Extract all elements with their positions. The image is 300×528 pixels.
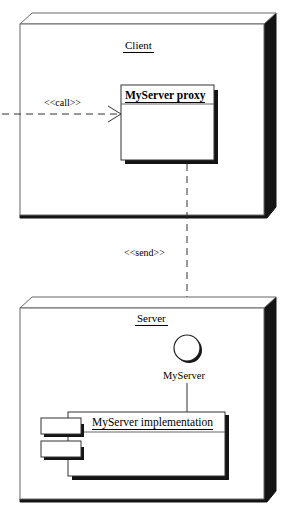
proxy-class-label: MyServer proxy [125, 90, 205, 102]
client-node-top-face [20, 13, 276, 24]
component-tab-upper [41, 418, 81, 434]
component-label: MyServer implementation [92, 417, 213, 429]
interface-circle-body [174, 335, 200, 361]
server-node-top-face [20, 297, 276, 308]
client-node-right-face [264, 13, 276, 215]
interface-label: MyServer [163, 371, 205, 382]
send-dependency-label: <<send>> [124, 248, 165, 258]
client-node-label: Client [123, 40, 154, 51]
diagram-canvas [0, 0, 300, 528]
server-node-label: Server [135, 313, 168, 324]
uml-deployment-diagram: Client <<call>> MyServer proxy <<send>> … [0, 0, 300, 528]
server-node-right-face [264, 297, 276, 499]
call-dependency-label: <<call>> [44, 98, 81, 108]
component-tab-lower [41, 441, 81, 457]
